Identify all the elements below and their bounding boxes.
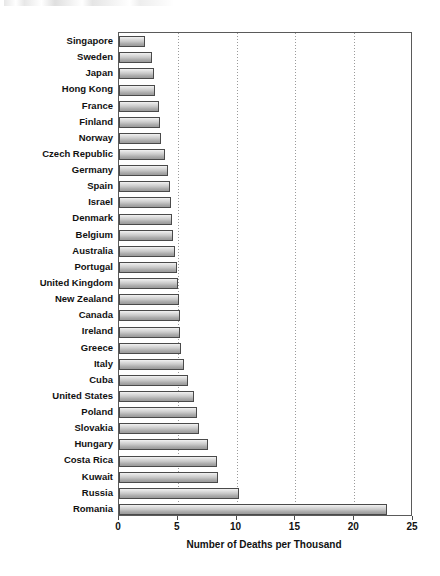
- x-tick-15: [294, 516, 295, 520]
- y-label-norway: Norway: [0, 129, 113, 146]
- bar-row: [119, 194, 413, 211]
- bar-united-kingdom: [119, 278, 178, 289]
- bar-italy: [119, 359, 184, 370]
- bar-costa-rica: [119, 456, 217, 467]
- bar-row: [119, 243, 413, 260]
- bar-row: [119, 33, 413, 50]
- y-label-germany: Germany: [0, 161, 113, 178]
- y-label-australia: Australia: [0, 242, 113, 259]
- bar-row: [119, 259, 413, 276]
- bar-row: [119, 340, 413, 357]
- y-label-singapore: Singapore: [0, 32, 113, 49]
- bar-row: [119, 388, 413, 405]
- bar-row: [119, 210, 413, 227]
- bar-poland: [119, 407, 197, 418]
- y-label-denmark: Denmark: [0, 209, 113, 226]
- y-label-costa-rica: Costa Rica: [0, 451, 113, 468]
- x-axis-title-text: Number of Deaths per Thousand: [186, 539, 341, 550]
- y-label-united-states: United States: [0, 387, 113, 404]
- bar-row: [119, 436, 413, 453]
- bar-row: [119, 162, 413, 179]
- x-tick-25: [412, 516, 413, 520]
- bar-greece: [119, 343, 181, 354]
- y-label-hong-kong: Hong Kong: [0, 80, 113, 97]
- y-label-ireland: Ireland: [0, 322, 113, 339]
- bar-japan: [119, 68, 154, 79]
- bar-denmark: [119, 214, 172, 225]
- y-label-czech-republic: Czech Republic: [0, 145, 113, 162]
- y-label-portugal: Portugal: [0, 258, 113, 275]
- x-tick-label-15: 15: [289, 521, 300, 532]
- x-tick-label-10: 10: [230, 521, 241, 532]
- y-label-belgium: Belgium: [0, 226, 113, 243]
- x-tick-label-0: 0: [115, 521, 121, 532]
- y-label-finland: Finland: [0, 113, 113, 130]
- bar-kuwait: [119, 472, 218, 483]
- y-label-slovakia: Slovakia: [0, 419, 113, 436]
- bar-series: [119, 33, 411, 515]
- y-label-cuba: Cuba: [0, 371, 113, 388]
- y-label-canada: Canada: [0, 306, 113, 323]
- bar-row: [119, 130, 413, 147]
- y-label-romania: Romania: [0, 500, 113, 517]
- bar-hong-kong: [119, 85, 155, 96]
- y-label-greece: Greece: [0, 339, 113, 356]
- bar-row: [119, 452, 413, 469]
- bar-cuba: [119, 375, 188, 386]
- y-label-japan: Japan: [0, 64, 113, 81]
- y-axis-category-labels: SingaporeSwedenJapanHong KongFranceFinla…: [0, 32, 113, 516]
- y-label-new-zealand: New Zealand: [0, 290, 113, 307]
- bar-row: [119, 146, 413, 163]
- y-label-israel: Israel: [0, 193, 113, 210]
- bar-row: [119, 469, 413, 486]
- bar-finland: [119, 117, 160, 128]
- y-label-france: France: [0, 97, 113, 114]
- y-label-hungary: Hungary: [0, 435, 113, 452]
- y-label-poland: Poland: [0, 403, 113, 420]
- bar-czech-republic: [119, 149, 165, 160]
- bar-canada: [119, 310, 180, 321]
- bar-united-states: [119, 391, 194, 402]
- bar-australia: [119, 246, 175, 257]
- bar-singapore: [119, 36, 145, 47]
- bar-row: [119, 49, 413, 66]
- bar-germany: [119, 165, 168, 176]
- y-label-spain: Spain: [0, 177, 113, 194]
- y-label-kuwait: Kuwait: [0, 468, 113, 485]
- bar-new-zealand: [119, 294, 179, 305]
- bar-france: [119, 101, 159, 112]
- bar-row: [119, 420, 413, 437]
- bar-chart: SingaporeSwedenJapanHong KongFranceFinla…: [0, 0, 440, 576]
- y-label-united-kingdom: United Kingdom: [0, 274, 113, 291]
- x-axis-title: Number of Deaths per Thousand: [0, 539, 440, 550]
- bar-spain: [119, 181, 170, 192]
- x-tick-label-5: 5: [174, 521, 180, 532]
- bar-slovakia: [119, 423, 199, 434]
- bar-row: [119, 98, 413, 115]
- x-tick-label-20: 20: [348, 521, 359, 532]
- x-tick-label-25: 25: [406, 521, 417, 532]
- bar-row: [119, 356, 413, 373]
- plot-area: [118, 32, 412, 516]
- bar-belgium: [119, 230, 173, 241]
- bar-row: [119, 275, 413, 292]
- bar-row: [119, 291, 413, 308]
- x-tick-20: [353, 516, 354, 520]
- bar-row: [119, 485, 413, 502]
- bar-row: [119, 307, 413, 324]
- bar-row: [119, 114, 413, 131]
- bar-ireland: [119, 327, 180, 338]
- bar-sweden: [119, 52, 152, 63]
- bar-israel: [119, 197, 171, 208]
- bar-row: [119, 227, 413, 244]
- y-label-italy: Italy: [0, 355, 113, 372]
- bar-row: [119, 81, 413, 98]
- x-tick-10: [236, 516, 237, 520]
- bar-row: [119, 372, 413, 389]
- y-label-sweden: Sweden: [0, 48, 113, 65]
- bar-portugal: [119, 262, 177, 273]
- bar-hungary: [119, 439, 208, 450]
- bar-norway: [119, 133, 161, 144]
- bar-romania: [119, 504, 387, 515]
- bar-row: [119, 501, 413, 518]
